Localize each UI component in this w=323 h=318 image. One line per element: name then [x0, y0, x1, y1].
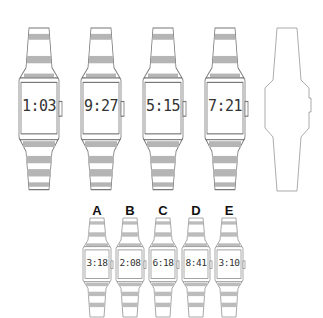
watch-1-time: 1:03	[21, 97, 57, 115]
option-e-label: E	[219, 203, 239, 218]
option-d-time: 8:41	[184, 257, 208, 268]
watch-5-blank-outline	[265, 28, 311, 191]
watch-4-time: 7:21	[207, 97, 243, 115]
option-b-label: B	[120, 203, 140, 218]
option-d-label: D	[186, 203, 206, 218]
option-c-time: 6:18	[151, 257, 175, 268]
option-a-label: A	[87, 203, 107, 218]
option-e-time: 3:10	[217, 257, 241, 268]
option-a-time: 3:18	[85, 257, 109, 268]
watch-3-time: 5:15	[145, 97, 181, 115]
option-c-label: C	[153, 203, 173, 218]
option-b-time: 2:08	[118, 257, 142, 268]
watch-2-time: 9:27	[83, 97, 119, 115]
watch-sequence-drawing	[0, 0, 323, 318]
